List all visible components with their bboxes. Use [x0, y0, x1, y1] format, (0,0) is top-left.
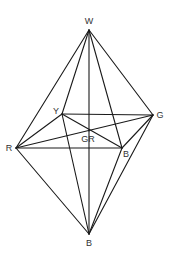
edge-w-g — [89, 30, 153, 115]
edges — [16, 30, 153, 234]
edge-w-r — [16, 30, 89, 148]
edge-w-b — [89, 30, 122, 148]
label-white: W — [85, 16, 94, 26]
label-red: R — [6, 143, 13, 153]
edge-w-y — [62, 30, 89, 114]
label-black: B — [86, 238, 92, 248]
edge-bk-r — [16, 148, 89, 234]
edge-bk-y — [62, 114, 89, 234]
color-solid-diagram: W Y G R B GR B — [0, 0, 171, 256]
edge-bk-b — [89, 148, 122, 234]
label-green: G — [156, 110, 163, 120]
edge-y-g — [62, 114, 153, 115]
label-blue: B — [123, 149, 129, 159]
label-yellow: Y — [53, 106, 59, 116]
label-gray: GR — [81, 134, 95, 144]
edge-bk-g — [89, 115, 153, 234]
